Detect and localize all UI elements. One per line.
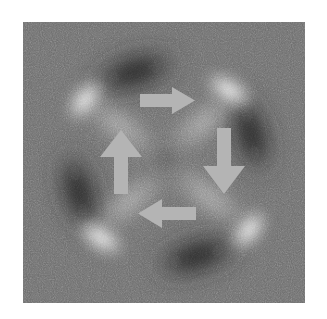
arrow-down	[203, 128, 245, 194]
arrow-right	[140, 87, 195, 114]
down-arrow-icon	[203, 128, 245, 194]
right-arrow-icon	[140, 87, 195, 114]
arrow-left	[138, 199, 196, 228]
micrograph-panel	[23, 22, 305, 303]
arrow-overlay	[23, 22, 305, 303]
figure-root	[0, 0, 327, 319]
left-arrow-icon	[138, 199, 196, 228]
arrow-up	[100, 130, 142, 194]
up-arrow-icon	[100, 130, 142, 194]
